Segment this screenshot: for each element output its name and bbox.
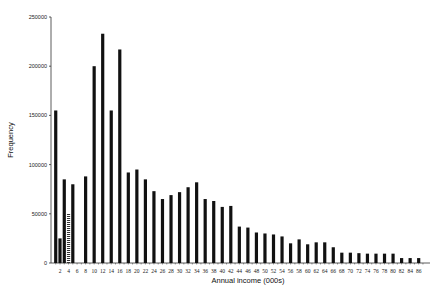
x-tick-label: 62	[313, 268, 319, 274]
bar	[169, 195, 172, 263]
bar	[204, 199, 207, 263]
x-tick-label: 18	[126, 268, 132, 274]
x-tick-label: 70	[348, 268, 354, 274]
x-tick-label: 46	[245, 268, 251, 274]
bar	[161, 199, 164, 263]
x-tick-label: 60	[305, 268, 311, 274]
bar	[374, 254, 377, 263]
bar	[409, 258, 412, 263]
bar	[400, 258, 403, 263]
x-tick-label: 76	[373, 268, 379, 274]
x-tick-label: 26	[160, 268, 166, 274]
y-tick-label: 250000	[29, 14, 47, 20]
bar	[366, 254, 369, 263]
x-tick-label: 16	[117, 268, 123, 274]
x-tick-label: 82	[399, 268, 405, 274]
y-tick-label: 100000	[29, 162, 47, 168]
x-tick-label: 50	[262, 268, 268, 274]
bar	[84, 176, 87, 263]
bar	[255, 232, 258, 263]
bar	[178, 192, 181, 263]
bar	[118, 49, 121, 263]
bar	[144, 179, 147, 263]
x-tick-label: 20	[134, 268, 140, 274]
x-tick-label: 30	[177, 268, 183, 274]
bars	[54, 34, 420, 263]
x-tick-label: 2	[59, 268, 62, 274]
x-tick-label: 56	[288, 268, 294, 274]
x-tick-label: 42	[228, 268, 234, 274]
bar	[263, 233, 266, 263]
x-tick-label: 66	[331, 268, 337, 274]
x-tick-label: 64	[322, 268, 328, 274]
bar	[417, 258, 420, 263]
bar	[152, 191, 155, 263]
x-tick-label: 80	[390, 268, 396, 274]
x-tick-label: 32	[185, 268, 191, 274]
bar	[63, 179, 66, 263]
bar	[58, 238, 61, 263]
x-tick-label: 58	[296, 268, 302, 274]
x-tick-label: 72	[356, 268, 362, 274]
bar	[127, 172, 130, 263]
bar	[280, 236, 283, 263]
x-tick-label: 24	[151, 268, 157, 274]
bar	[349, 253, 352, 263]
bar	[246, 228, 249, 263]
bar	[357, 253, 360, 263]
bar	[71, 184, 74, 263]
bar	[110, 110, 113, 263]
bar	[298, 239, 301, 263]
x-tick-label: 48	[254, 268, 260, 274]
y-tick-label: 200000	[29, 63, 47, 69]
x-tick-label: 78	[382, 268, 388, 274]
y-tick-label: 0	[44, 260, 47, 266]
x-tick-label: 4	[67, 268, 70, 274]
bar	[54, 110, 57, 263]
bar	[212, 201, 215, 263]
x-tick-label: 28	[168, 268, 174, 274]
bar	[272, 234, 275, 263]
bar	[101, 34, 104, 263]
x-tick-label: 84	[407, 268, 413, 274]
bar	[187, 187, 190, 263]
x-tick-label: 34	[194, 268, 200, 274]
x-tick-label: 68	[339, 268, 345, 274]
bar	[135, 170, 138, 263]
bar	[340, 253, 343, 263]
x-axis: 2468101214161820222426283032343638404244…	[51, 263, 430, 274]
bar	[289, 243, 292, 263]
x-tick-label: 86	[416, 268, 422, 274]
x-tick-label: 40	[220, 268, 226, 274]
bar	[229, 206, 232, 263]
x-tick-label: 36	[202, 268, 208, 274]
x-tick-label: 8	[84, 268, 87, 274]
bar	[221, 207, 224, 263]
x-tick-label: 52	[271, 268, 277, 274]
bar	[332, 247, 335, 263]
x-tick-label: 14	[108, 268, 114, 274]
bar	[67, 214, 70, 263]
bar	[391, 254, 394, 263]
x-tick-label: 44	[237, 268, 243, 274]
x-tick-label: 38	[211, 268, 217, 274]
bar	[93, 66, 96, 263]
bar	[306, 244, 309, 263]
bar	[238, 227, 241, 263]
x-axis-title: Annual income (000s)	[212, 276, 285, 285]
income-frequency-bar-chart: 050000100000150000200000250000 246810121…	[0, 0, 445, 305]
x-tick-label: 74	[365, 268, 371, 274]
bar	[323, 242, 326, 263]
x-tick-label: 54	[279, 268, 285, 274]
y-axis: 050000100000150000200000250000	[29, 14, 51, 266]
y-tick-label: 50000	[32, 211, 47, 217]
bar	[315, 242, 318, 263]
bar	[383, 254, 386, 263]
x-tick-label: 6	[76, 268, 79, 274]
y-axis-title: Frequency	[6, 122, 15, 158]
x-tick-label: 22	[143, 268, 149, 274]
x-tick-label: 12	[100, 268, 106, 274]
x-tick-label: 10	[91, 268, 97, 274]
y-tick-label: 150000	[29, 112, 47, 118]
bar	[195, 182, 198, 263]
